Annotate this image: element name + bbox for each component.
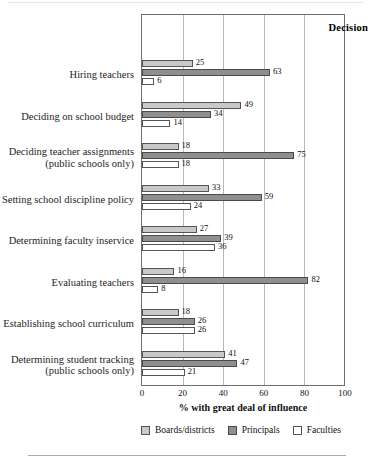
bar-2-6 xyxy=(142,327,195,334)
legend-swatch-icon-0 xyxy=(141,426,150,435)
legend-label-0: Boards/districts xyxy=(155,425,215,435)
bar-value-label-2-7: 21 xyxy=(188,367,197,376)
bar-1-6 xyxy=(142,318,195,325)
bar-0-1 xyxy=(142,102,241,109)
category-label-line: Setting school discipline policy xyxy=(2,194,134,206)
bar-value-label-2-3: 24 xyxy=(194,201,203,210)
bar-value-label-0-0: 25 xyxy=(196,58,205,67)
x-tick-label-60: 60 xyxy=(259,388,268,398)
bar-0-2 xyxy=(142,143,179,150)
category-label-line: (public schools only) xyxy=(9,158,134,170)
x-tick-label-100: 100 xyxy=(338,388,352,398)
bar-value-label-1-1: 34 xyxy=(214,109,223,118)
bar-value-label-0-1: 49 xyxy=(244,100,253,109)
bar-2-2 xyxy=(142,161,179,168)
legend-item-2[interactable]: Faculties xyxy=(293,425,341,435)
category-label-4: Determining faculty inservice xyxy=(9,235,134,247)
bar-2-3 xyxy=(142,203,191,210)
legend-swatch-icon-1 xyxy=(228,426,237,435)
bar-value-label-2-6: 26 xyxy=(198,325,207,334)
legend-item-0[interactable]: Boards/districts xyxy=(141,425,215,435)
category-label-5: Evaluating teachers xyxy=(51,277,134,289)
bar-value-label-1-2: 75 xyxy=(297,150,306,159)
bar-0-4 xyxy=(142,226,197,233)
bar-1-4 xyxy=(142,235,221,242)
bar-value-label-2-2: 18 xyxy=(182,159,191,168)
bar-value-label-1-0: 63 xyxy=(273,67,282,76)
bar-2-1 xyxy=(142,120,170,127)
bar-value-label-0-2: 18 xyxy=(182,141,191,150)
x-axis-ticks: 020406080100 xyxy=(141,388,345,400)
chart-legend: Boards/districtsPrincipalsFaculties xyxy=(141,422,366,438)
x-tick-label-40: 40 xyxy=(219,388,228,398)
bar-0-3 xyxy=(142,185,209,192)
category-label-line: Evaluating teachers xyxy=(51,277,134,289)
category-label-6: Establishing school curriculum xyxy=(3,318,134,330)
category-label-column: Hiring teachersDeciding on school budget… xyxy=(0,14,138,386)
top-divider-rule xyxy=(8,2,364,3)
category-label-0: Hiring teachers xyxy=(70,69,134,81)
category-label-line: Hiring teachers xyxy=(70,69,134,81)
legend-label-2: Faculties xyxy=(307,425,341,435)
legend-swatch-icon-2 xyxy=(293,426,302,435)
bar-value-label-2-1: 14 xyxy=(173,118,182,127)
x-tick-label-20: 20 xyxy=(178,388,187,398)
bar-value-label-0-6: 18 xyxy=(182,307,191,316)
bar-value-label-2-0: 6 xyxy=(157,76,161,85)
bar-2-0 xyxy=(142,78,154,85)
bar-value-label-0-7: 41 xyxy=(228,349,237,358)
legend-label-1: Principals xyxy=(242,425,280,435)
category-label-line: Deciding teacher assignments xyxy=(9,146,134,158)
bar-value-label-0-3: 33 xyxy=(212,183,221,192)
bar-2-7 xyxy=(142,369,185,376)
bar-1-2 xyxy=(142,152,294,159)
bar-0-6 xyxy=(142,309,179,316)
bar-0-7 xyxy=(142,351,225,358)
bars-layer: 2563649341418751833592427393616828182626… xyxy=(142,15,345,385)
legend-item-1[interactable]: Principals xyxy=(228,425,280,435)
category-label-2: Deciding teacher assignments(public scho… xyxy=(9,146,134,169)
bar-1-0 xyxy=(142,69,270,76)
bar-2-4 xyxy=(142,244,215,251)
category-label-line: Determining faculty inservice xyxy=(9,235,134,247)
category-label-line: Establishing school curriculum xyxy=(3,318,134,330)
bar-value-label-1-3: 59 xyxy=(265,192,274,201)
bar-value-label-2-5: 8 xyxy=(161,284,165,293)
bar-2-5 xyxy=(142,286,158,293)
x-tick-label-80: 80 xyxy=(300,388,309,398)
category-label-1: Deciding on school budget xyxy=(21,111,134,123)
bar-value-label-1-7: 47 xyxy=(240,358,249,367)
category-label-3: Setting school discipline policy xyxy=(2,194,134,206)
x-tick-label-0: 0 xyxy=(140,388,145,398)
bar-0-0 xyxy=(142,60,193,67)
x-axis-title: % with great deal of influence xyxy=(141,402,345,413)
bar-1-5 xyxy=(142,277,308,284)
bar-value-label-1-5: 82 xyxy=(311,275,320,284)
figure-container: Decision Hiring teachersDeciding on scho… xyxy=(0,0,372,466)
category-label-line: Deciding on school budget xyxy=(21,111,134,123)
bar-value-label-0-5: 16 xyxy=(177,266,186,275)
bar-value-label-2-4: 36 xyxy=(218,242,227,251)
bottom-divider-rule xyxy=(28,455,346,456)
category-label-line: (public schools only) xyxy=(11,365,134,377)
category-label-7: Determining student tracking(public scho… xyxy=(11,354,134,377)
bar-0-5 xyxy=(142,268,174,275)
category-label-line: Determining student tracking xyxy=(11,354,134,366)
bar-value-label-0-4: 27 xyxy=(200,224,209,233)
